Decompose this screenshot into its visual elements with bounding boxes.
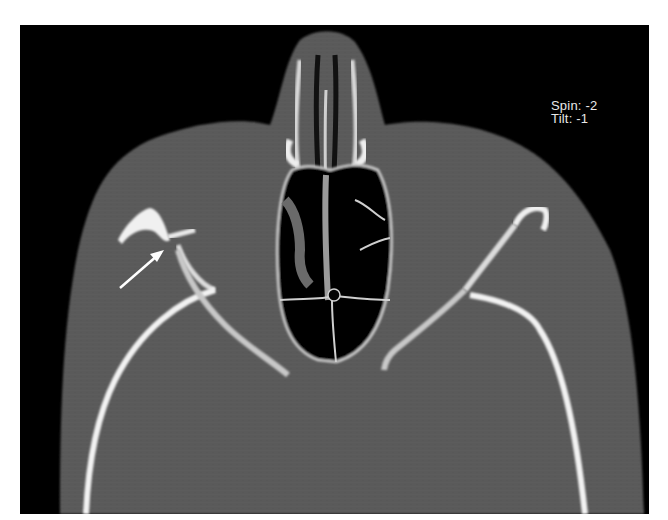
ct-scan-image: Spin: -2 Tilt: -1	[20, 25, 649, 514]
tilt-label: Tilt: -1	[551, 112, 588, 125]
